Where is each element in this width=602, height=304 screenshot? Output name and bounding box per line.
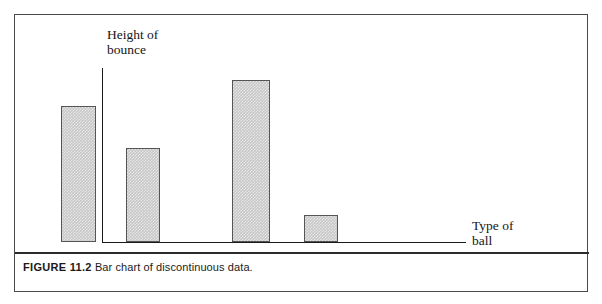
caption-divider (15, 252, 589, 254)
figure-caption-text: Bar chart of discontinuous data. (95, 261, 253, 273)
y-axis-label: Height of bounce (107, 27, 158, 57)
figure-caption-number: FIGURE 11.2 (23, 261, 92, 273)
x-axis-line (102, 242, 466, 243)
bar-4 (304, 215, 338, 242)
bar-3 (232, 80, 270, 242)
figure-caption: FIGURE 11.2 Bar chart of discontinuous d… (23, 261, 253, 273)
y-axis-line (102, 68, 103, 243)
figure-frame: Height of bounce Type of ball FIGURE 11.… (14, 14, 588, 292)
bar-1 (61, 106, 96, 242)
x-axis-label: Type of ball (472, 218, 513, 248)
bar-2 (126, 148, 160, 242)
